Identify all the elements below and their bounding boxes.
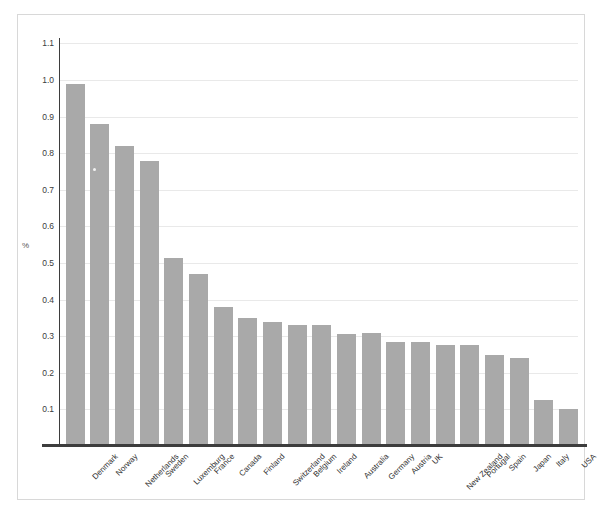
x-tick-label: UK [430, 452, 444, 466]
x-tick-label: Australia [362, 452, 390, 480]
x-tick-label: USA [579, 452, 597, 470]
x-tick-label: Canada [237, 452, 263, 478]
x-tick-label: Italy [554, 452, 571, 469]
image-speck [93, 168, 96, 171]
x-tick-label: Denmark [91, 452, 120, 481]
bar-chart-figure: % 0.10.20.30.40.50.60.70.80.91.01.1 Denm… [0, 0, 603, 516]
x-axis-tick-labels: DenmarkNorwayNetherlandsSwedenLuxemburgF… [0, 0, 603, 516]
x-tick-label: Ireland [335, 452, 359, 476]
x-tick-label: Finland [262, 452, 287, 477]
x-tick-label: Japan [532, 452, 554, 474]
